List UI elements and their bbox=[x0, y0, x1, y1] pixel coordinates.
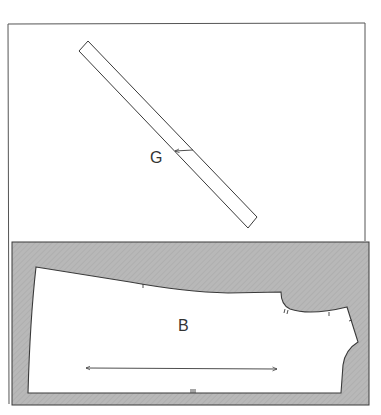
pattern-diagram: G B bbox=[0, 0, 381, 415]
bias-strip-piece bbox=[79, 41, 257, 228]
bottom-panel: B bbox=[12, 242, 369, 405]
piece-label-b: B bbox=[178, 317, 189, 334]
piece-label-g: G bbox=[150, 149, 162, 166]
